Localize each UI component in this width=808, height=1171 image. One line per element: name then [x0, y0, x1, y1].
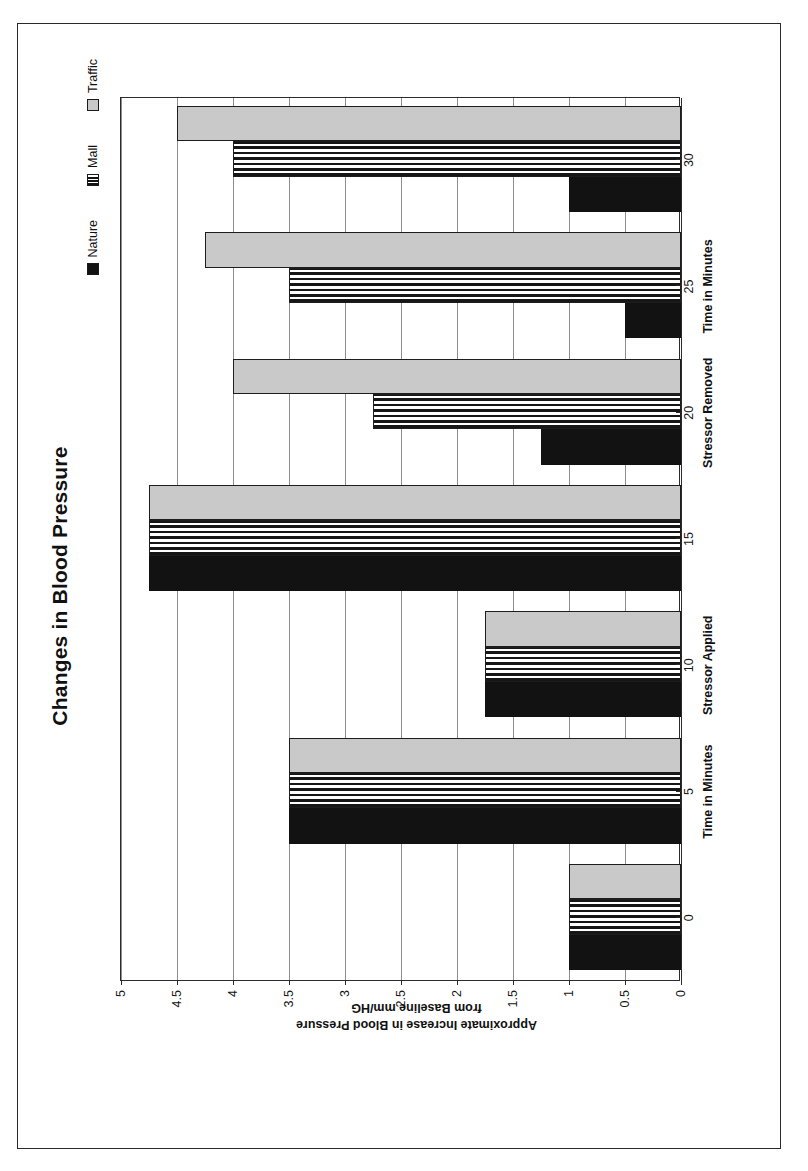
value-tick-label: 0: [674, 990, 688, 1048]
category-label-20: 20: [682, 368, 696, 458]
category-label-0: 0: [682, 873, 696, 963]
category-label-30: 30: [682, 115, 696, 205]
value-tick-mark: [345, 980, 346, 985]
value-tick-label: 2.5: [394, 990, 408, 1048]
value-tick-mark: [233, 980, 234, 985]
figure-frame: Changes in Blood Pressure NatureMallTraf…: [17, 23, 781, 1149]
category-label-25: 25: [682, 241, 696, 331]
value-tick-label: 0.5: [618, 990, 632, 1048]
bar-group: [121, 738, 681, 844]
bar-mall-10[interactable]: [485, 647, 681, 682]
value-tick-mark: [513, 980, 514, 985]
value-tick-label: 2: [450, 990, 464, 1048]
value-tick-label: 4: [226, 990, 240, 1048]
category-label-15: 15: [682, 494, 696, 584]
bar-nature-0[interactable]: [569, 935, 681, 970]
category-label-5: 5: [682, 747, 696, 837]
value-tick-mark: [569, 980, 570, 985]
value-tick-label: 4.5: [170, 990, 184, 1048]
legend-item-mall[interactable]: Mall: [86, 145, 100, 186]
bar-group: [121, 864, 681, 970]
nature-swatch-icon: [87, 264, 99, 276]
bar-mall-25[interactable]: [289, 268, 681, 303]
bar-mall-15[interactable]: [149, 520, 681, 555]
bar-mall-5[interactable]: [289, 773, 681, 808]
value-tick-mark: [177, 980, 178, 985]
value-tick-mark: [625, 980, 626, 985]
bar-mall-20[interactable]: [373, 394, 681, 429]
bar-nature-25[interactable]: [625, 303, 681, 338]
bar-traffic-25[interactable]: [205, 232, 681, 267]
bar-group: [121, 106, 681, 212]
chart-area: Changes in Blood Pressure NatureMallTraf…: [42, 43, 756, 1129]
legend-label: Traffic: [86, 59, 100, 93]
bar-traffic-30[interactable]: [177, 106, 681, 141]
rotated-chart-wrapper: Changes in Blood Pressure NatureMallTraf…: [42, 43, 756, 1129]
value-tick-label: 5: [114, 990, 128, 1048]
bar-traffic-5[interactable]: [289, 738, 681, 773]
bar-group: [121, 232, 681, 338]
bar-nature-30[interactable]: [569, 177, 681, 212]
bar-traffic-20[interactable]: [233, 359, 681, 394]
value-tick-mark: [121, 980, 122, 985]
bar-nature-15[interactable]: [149, 556, 681, 591]
bar-traffic-10[interactable]: [485, 611, 681, 646]
category-axis: 05Time in Minutes10Stressor Applied1520S…: [682, 97, 744, 981]
legend-label: Nature: [86, 220, 100, 258]
bar-nature-5[interactable]: [289, 808, 681, 843]
chart-page: Changes in Blood Pressure NatureMallTraf…: [0, 0, 808, 1171]
value-tick-mark: [289, 980, 290, 985]
value-tick-label: 1.5: [506, 990, 520, 1048]
bar-nature-20[interactable]: [541, 429, 681, 464]
chart-legend: NatureMallTraffic: [86, 59, 100, 309]
bar-nature-10[interactable]: [485, 682, 681, 717]
bar-group: [121, 485, 681, 591]
bar-group: [121, 359, 681, 465]
legend-item-nature[interactable]: Nature: [86, 220, 100, 276]
chart-title: Changes in Blood Pressure: [48, 43, 72, 1129]
value-tick-mark: [457, 980, 458, 985]
value-tick-label: 3.5: [282, 990, 296, 1048]
bar-traffic-15[interactable]: [149, 485, 681, 520]
plot-area: 00.511.522.533.544.55 Approximate Increa…: [120, 97, 680, 981]
bar-group: [121, 611, 681, 717]
category-label-10: 10: [682, 620, 696, 710]
value-tick-label: 3: [338, 990, 352, 1048]
legend-label: Mall: [86, 145, 100, 168]
mall-swatch-icon: [87, 174, 99, 186]
traffic-swatch-icon: [87, 99, 99, 111]
bar-mall-0[interactable]: [569, 899, 681, 934]
legend-item-traffic[interactable]: Traffic: [86, 59, 100, 111]
bar-mall-30[interactable]: [233, 141, 681, 176]
plot-inner: 00.511.522.533.544.55: [121, 98, 679, 980]
category-annotation: Time in Minutes: [701, 196, 715, 376]
bar-traffic-0[interactable]: [569, 864, 681, 899]
value-tick-mark: [401, 980, 402, 985]
category-annotation: Stressor Applied: [701, 575, 715, 755]
value-tick-label: 1: [562, 990, 576, 1048]
